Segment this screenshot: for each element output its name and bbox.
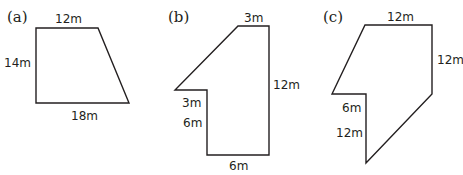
shape-a-outline <box>36 28 129 103</box>
shape-a-left-label: 14m <box>4 56 31 70</box>
shape-c: (c) 12m 12m 6m 12m <box>323 8 463 163</box>
shape-a-bottom-label: 18m <box>71 109 98 123</box>
shape-a: (a) 12m 14m 18m <box>4 8 129 123</box>
shape-b-outline <box>175 26 269 155</box>
shape-b-bottom-label: 6m <box>229 159 248 173</box>
shape-b-left-upper-label: 3m <box>182 96 201 110</box>
shape-b-right-label: 12m <box>273 78 300 92</box>
shape-c-top-label: 12m <box>387 10 414 24</box>
shape-b-top-label: 3m <box>244 11 263 25</box>
shape-b-left-lower-label: 6m <box>183 116 202 130</box>
shape-c-left-upper-label: 6m <box>342 101 361 115</box>
shape-c-left-lower-label: 12m <box>336 126 363 140</box>
shape-c-tag: (c) <box>323 8 343 26</box>
shape-b: (b) 3m 12m 6m 3m 6m <box>168 8 300 173</box>
shape-a-tag: (a) <box>7 8 28 26</box>
shape-c-right-label: 12m <box>437 53 463 67</box>
shape-c-outline <box>332 25 432 163</box>
shape-b-tag: (b) <box>168 8 189 26</box>
shape-a-top-label: 12m <box>55 12 82 26</box>
shapes-figure: (a) 12m 14m 18m (b) 3m 12m 6m 3m 6m (c) … <box>0 0 463 175</box>
